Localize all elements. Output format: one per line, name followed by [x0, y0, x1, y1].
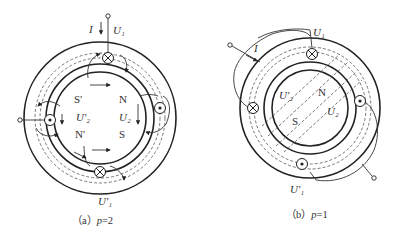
terminal-top — [106, 14, 110, 18]
figure-a: I U₁ — [18, 14, 176, 226]
terminal-left — [18, 118, 22, 122]
lead-bottom-right — [362, 164, 372, 176]
conductor-right-dot-icon — [355, 96, 366, 107]
rotor-right-label: U₂ — [327, 105, 339, 117]
conductor-top-cross-icon — [307, 49, 318, 60]
current-arrow — [246, 55, 257, 61]
caption-b: （b）p=1 — [286, 209, 328, 220]
rotor-left-label: U′₂ — [76, 111, 90, 123]
diagram-canvas: I U₁ — [0, 0, 397, 232]
terminal-bottom-right — [372, 176, 376, 180]
conductor-bottom-cross-icon — [95, 167, 106, 178]
terminal-bottom-label: U′₁ — [98, 195, 112, 207]
pole-bottom-left: N′ — [75, 128, 85, 140]
current-label: I — [88, 23, 94, 35]
terminal-bottom-label: U′₁ — [290, 183, 304, 195]
winding-dashed-outer — [249, 47, 371, 169]
rotor-left-label: U′₂ — [279, 89, 293, 101]
conductor-bottom-dot-icon — [297, 159, 308, 170]
terminal-top-label: U₁ — [313, 26, 325, 38]
winding-dashed-inner — [254, 52, 366, 164]
caption-a: （a）p=2 — [72, 215, 113, 226]
pole-south: S — [292, 115, 298, 127]
terminal-top-left — [228, 43, 232, 47]
figure-b: I U₁ — [228, 26, 380, 220]
pole-bottom-right: S — [119, 128, 125, 140]
stator-inner-ring — [264, 62, 356, 154]
pole-top-left: S′ — [74, 93, 83, 105]
flux-lines — [36, 54, 170, 180]
winding-dashed-inner — [40, 58, 160, 178]
outer-winding-arc-left — [234, 30, 310, 108]
terminal-top-label: U₁ — [113, 24, 125, 36]
conductor-left-cross-icon — [248, 103, 259, 114]
pole-north: N — [318, 86, 326, 98]
current-label: I — [253, 42, 259, 54]
conductor-left-dot-icon — [45, 115, 56, 126]
conductor-right-dot-icon — [155, 103, 166, 114]
pole-top-right: N — [119, 93, 127, 105]
conductor-top-cross-icon — [103, 53, 114, 64]
rotor-right-label: U₂ — [119, 111, 131, 123]
